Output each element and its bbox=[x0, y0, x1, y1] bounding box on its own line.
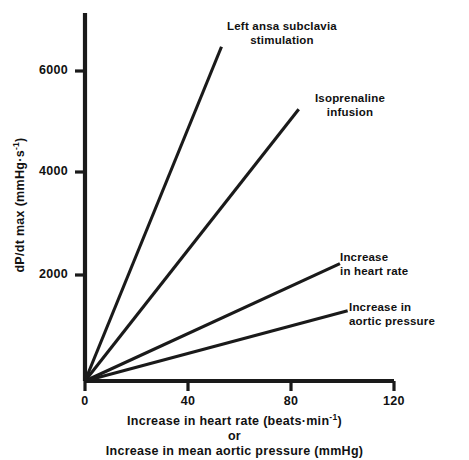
annotation-isoprenaline-infusion-line1: Isoprenaline bbox=[288, 91, 412, 105]
series-line-isoprenaline-infusion bbox=[85, 109, 299, 381]
chart-plot-area bbox=[0, 0, 469, 460]
y-axis-title-superscript: -1 bbox=[11, 142, 21, 150]
annotation-increase-in-aortic-pressure-line1: Increase in bbox=[349, 300, 435, 314]
x-axis-title-suffix: ) bbox=[338, 414, 342, 428]
annotation-left-ansa-subclavia-line1: Left ansa subclavia bbox=[196, 19, 368, 33]
series-line-left-ansa-subclavia-stimulation bbox=[85, 47, 221, 381]
annotation-increase-in-aortic-pressure-line2: aortic pressure bbox=[349, 314, 435, 328]
x-tick-label-120: 120 bbox=[374, 394, 414, 408]
figure-container: 6000 4000 2000 0 40 80 120 dP/dt max (mm… bbox=[0, 0, 469, 460]
x-tick-label-80: 80 bbox=[271, 394, 311, 408]
x-axis-title-superscript: -1 bbox=[329, 412, 337, 422]
y-axis-title-prefix: dP/dt max (mmHg·s bbox=[13, 150, 27, 272]
y-axis-title-suffix: ) bbox=[13, 137, 27, 141]
annotation-left-ansa-subclavia-line2: stimulation bbox=[196, 33, 368, 47]
annotation-increase-in-heart-rate-line1: Increase bbox=[340, 250, 408, 264]
x-axis-title-line3: Increase in mean aortic pressure (mmHg) bbox=[0, 444, 469, 458]
annotation-increase-in-aortic-pressure: Increase in aortic pressure bbox=[349, 300, 435, 328]
annotation-increase-in-heart-rate: Increase in heart rate bbox=[340, 250, 408, 278]
y-axis-title: dP/dt max (mmHg·s-1) bbox=[13, 137, 27, 272]
annotation-increase-in-heart-rate-line2: in heart rate bbox=[340, 264, 408, 278]
y-tick-label-6000: 6000 bbox=[18, 63, 68, 77]
y-axis-title-wrapper: dP/dt max (mmHg·s-1) bbox=[6, 100, 34, 310]
annotation-isoprenaline-infusion-line2: infusion bbox=[288, 105, 412, 119]
x-tick-label-40: 40 bbox=[168, 394, 208, 408]
annotation-isoprenaline-infusion: Isoprenaline infusion bbox=[288, 91, 412, 119]
x-axis-title-line1: Increase in heart rate (beats·min-1) bbox=[0, 414, 469, 428]
annotation-left-ansa-subclavia: Left ansa subclavia stimulation bbox=[196, 19, 368, 47]
x-tick-label-0: 0 bbox=[65, 394, 105, 408]
x-axis-title-prefix: Increase in heart rate (beats·min bbox=[127, 414, 329, 428]
x-axis-title-or: or bbox=[0, 429, 469, 443]
